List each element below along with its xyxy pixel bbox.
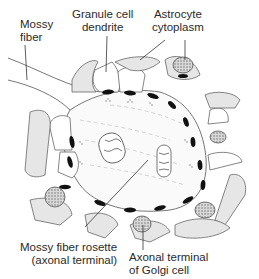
label-line: Granule cell (72, 8, 133, 21)
label-line: fiber (20, 31, 53, 44)
label-mossy-fiber-rosette: Mossy fiber rosette (axonal terminal) (20, 241, 117, 267)
label-line: of Golgi cell (129, 264, 208, 277)
label-line: Mossy (20, 18, 53, 31)
label-golgi-terminal: Axonal terminal of Golgi cell (129, 251, 208, 277)
label-line: cytoplasm (152, 21, 204, 34)
label-granule-cell-dendrite: Granule cell dendrite (72, 8, 133, 34)
label-line: (axonal terminal) (20, 254, 117, 267)
label-line: Axonal terminal (129, 251, 208, 264)
label-astrocyte-cytoplasm: Astrocyte cytoplasm (152, 8, 204, 34)
label-line: dendrite (72, 21, 133, 34)
label-mossy-fiber: Mossy fiber (20, 18, 53, 44)
label-line: Mossy fiber rosette (20, 241, 117, 254)
label-line: Astrocyte (152, 8, 204, 21)
